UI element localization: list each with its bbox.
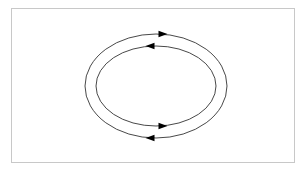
arrow-right-icon [159,31,168,37]
cycle-diagram [0,0,307,170]
arrow-left-icon [146,43,155,49]
outer-loop [85,34,227,138]
inner-loop [96,46,216,126]
arrow-right-icon [159,123,168,129]
arrow-left-icon [146,135,155,141]
